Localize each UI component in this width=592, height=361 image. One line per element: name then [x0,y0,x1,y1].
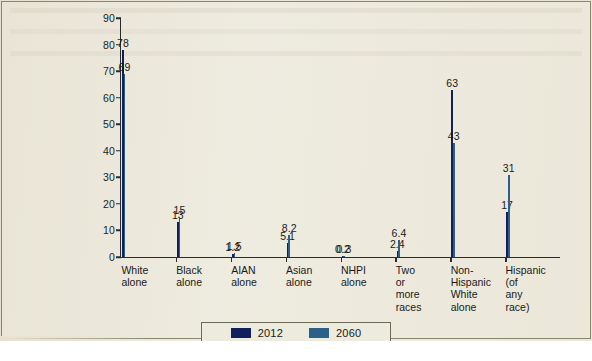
y-axis-tick-0: 0 [93,251,121,263]
bar-2060[interactable]: 6.4 [398,240,400,257]
legend-item-2012[interactable]: 2012 [231,327,283,339]
legend-item-2060[interactable]: 2060 [309,327,361,339]
x-axis-tick [286,257,288,262]
legend-swatch-2012 [231,328,251,338]
x-axis-tick [176,257,178,262]
bar-2060[interactable]: 69 [124,74,126,257]
bar-value-label: 43 [448,130,460,142]
bar-2060[interactable]: 43 [453,143,455,257]
page-bottom-margin [0,341,592,361]
x-axis-category-label: White alone [121,264,127,288]
x-axis-tick [341,257,343,262]
bar-group: 1.21.5AIAN alone [231,18,286,257]
bar-group: 1315Black alone [176,18,231,257]
bar-2060[interactable]: 8.2 [288,235,290,257]
bar-value-label: 8.2 [282,222,297,234]
bar-2060[interactable]: 1.5 [234,253,236,257]
x-axis-tick [450,257,452,262]
bar-2060[interactable]: 31 [508,175,510,257]
y-axis-tick-90: 90 [93,12,121,24]
x-axis-tick [505,257,507,262]
x-axis-category-label: Asian alone [286,264,292,288]
x-axis-tick [231,257,233,262]
bar-value-label: 78 [117,37,129,49]
bar-value-label: 6.4 [391,227,406,239]
x-axis-category-label: Two or more races [396,264,402,313]
x-axis-category-label: NHPI alone [341,264,347,288]
plot-area: 0102030405060708090 7869White alone1315B… [120,18,560,258]
bar-group: 0.20.3NHPI alone [341,18,396,257]
legend-swatch-2060 [309,328,329,338]
bar-value-label: 69 [119,61,131,73]
bar-group: 2.46.4Two or more races [395,18,450,257]
bar-group: 5.18.2Asian alone [286,18,341,257]
y-axis-tick-20: 20 [93,198,121,210]
x-axis-category-label: AIAN alone [231,264,237,288]
y-axis-tick-50: 50 [93,118,121,130]
bar-2060[interactable]: 0.3 [343,256,345,257]
y-axis-tick-10: 10 [93,224,121,236]
bar-group: 6343Non- Hispanic White alone [450,18,505,257]
bar-value-label: 63 [446,77,458,89]
x-axis-category-label: Hispanic (of any race) [506,264,512,313]
bar-2060[interactable]: 15 [179,217,181,257]
bar-value-label: 15 [173,204,185,216]
x-axis-category-label: Black alone [176,264,182,288]
bar-group: 7869White alone [121,18,176,257]
x-axis-tick [395,257,397,262]
scanned-page: 0102030405060708090 7869White alone1315B… [0,0,592,361]
y-axis-tick-60: 60 [93,92,121,104]
y-axis-tick-70: 70 [93,65,121,77]
x-axis-category-label: Non- Hispanic White alone [451,264,457,313]
y-axis-tick-40: 40 [93,145,121,157]
grouped-bar-chart: 0102030405060708090 7869White alone1315B… [92,18,560,258]
legend-label: 2060 [336,327,361,339]
bar-value-label: 1.5 [227,240,242,252]
bar-value-label: 31 [503,162,515,174]
legend-label: 2012 [258,327,283,339]
bar-group: 1731Hispanic (of any race) [505,18,560,257]
bar-value-label: 0.3 [337,243,352,255]
y-axis-tick-30: 30 [93,171,121,183]
